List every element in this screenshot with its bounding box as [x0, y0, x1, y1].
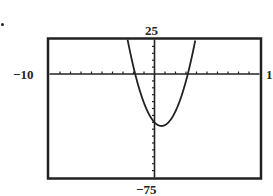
axes — [50, 40, 260, 178]
graph-plot — [0, 0, 273, 196]
parabola-curve — [128, 40, 196, 126]
